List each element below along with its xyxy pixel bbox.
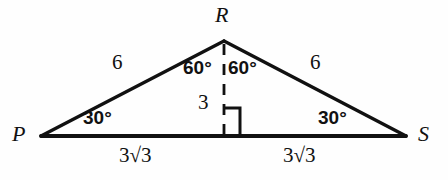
side-length-label-pr: 6 bbox=[112, 52, 123, 73]
vertex-label-s: S bbox=[418, 123, 429, 145]
angle-label-p: 30° bbox=[83, 108, 112, 127]
angle-label-s: 30° bbox=[318, 108, 347, 127]
base-length-label-left: 3√3 bbox=[119, 145, 152, 166]
base-length-label-right: 3√3 bbox=[283, 145, 316, 166]
triangle-drawing bbox=[0, 0, 448, 180]
vertex-label-r: R bbox=[215, 4, 228, 26]
angle-label-apex-right: 60° bbox=[228, 58, 257, 77]
side-length-label-rs: 6 bbox=[310, 52, 321, 73]
vertex-label-p: P bbox=[12, 123, 25, 145]
right-angle-marker bbox=[224, 108, 240, 135]
altitude-length-label: 3 bbox=[198, 92, 209, 113]
geometry-diagram: P R S 6 6 60° 60° 3 3√3 3√3 30° 30° bbox=[0, 0, 448, 180]
segment-PR bbox=[41, 41, 224, 136]
angle-label-apex-left: 60° bbox=[183, 58, 212, 77]
